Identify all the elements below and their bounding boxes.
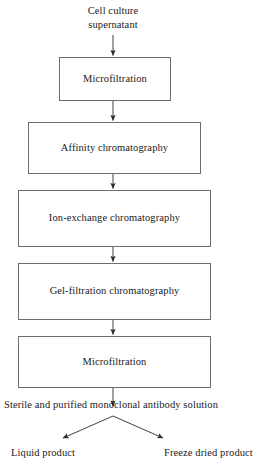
process-box-label: Gel-filtration chromatography — [50, 285, 180, 297]
branch-label-liquid-product: Liquid product — [11, 446, 75, 460]
process-box-microfiltration-2: Microfiltration — [18, 336, 211, 388]
process-box-label: Microfiltration — [83, 356, 147, 368]
output-label: Sterile and purified monoclonal antibody… — [4, 398, 218, 412]
process-box-gel-filtration-chromatography: Gel-filtration chromatography — [18, 263, 211, 320]
process-box-microfiltration-1: Microfiltration — [59, 57, 171, 101]
process-box-ion-exchange-chromatography: Ion-exchange chromatography — [18, 190, 211, 247]
process-box-label: Microfiltration — [83, 73, 147, 85]
process-box-label: Ion-exchange chromatography — [49, 212, 180, 224]
edge-output-to-freeze-dried-product — [113, 416, 163, 438]
input-label: Cell culture supernatant — [48, 4, 178, 32]
process-box-affinity-chromatography: Affinity chromatography — [28, 122, 201, 174]
edge-output-to-liquid-product — [63, 416, 113, 438]
branch-label-freeze-dried-product: Freeze dried product — [164, 446, 253, 460]
flowchart-diagram: Cell culture supernatant Microfiltration… — [0, 0, 268, 472]
process-box-label: Affinity chromatography — [61, 142, 168, 154]
